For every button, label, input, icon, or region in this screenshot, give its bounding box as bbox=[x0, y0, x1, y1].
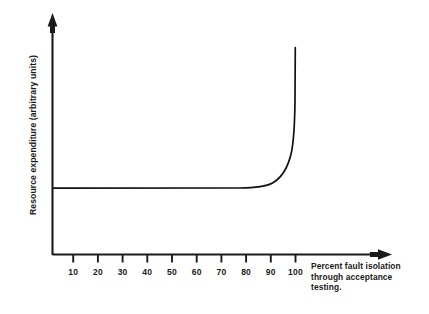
x-tick-label-10: 10 bbox=[60, 268, 86, 277]
x-axis-arrow-stem bbox=[370, 252, 379, 257]
x-axis-title-line-3: testing. bbox=[311, 282, 427, 293]
x-tick-label-40: 40 bbox=[134, 268, 160, 277]
x-axis-title-line-1: Percent fault isolation bbox=[311, 261, 427, 272]
x-tick-label-90: 90 bbox=[258, 268, 284, 277]
x-tick-label-70: 70 bbox=[208, 268, 234, 277]
y-axis-title: Resource expenditure (arbitrary units) bbox=[28, 40, 38, 230]
x-tick-label-60: 60 bbox=[184, 268, 210, 277]
x-tick-label-50: 50 bbox=[159, 268, 185, 277]
resource-expenditure-curve bbox=[54, 48, 296, 189]
y-axis-arrow-stem bbox=[50, 24, 55, 33]
x-axis-arrow-icon bbox=[378, 249, 392, 259]
x-axis-title-line-2: through acceptance bbox=[311, 272, 427, 283]
x-axis-ticks bbox=[73, 255, 295, 263]
x-axis-title: Percent fault isolation through acceptan… bbox=[311, 261, 427, 293]
x-tick-label-100: 100 bbox=[283, 268, 309, 277]
x-tick-label-20: 20 bbox=[85, 268, 111, 277]
x-tick-label-80: 80 bbox=[233, 268, 259, 277]
x-tick-label-30: 30 bbox=[110, 268, 136, 277]
chart-figure: 10 20 30 40 50 60 70 80 90 100 Resource … bbox=[0, 0, 429, 314]
